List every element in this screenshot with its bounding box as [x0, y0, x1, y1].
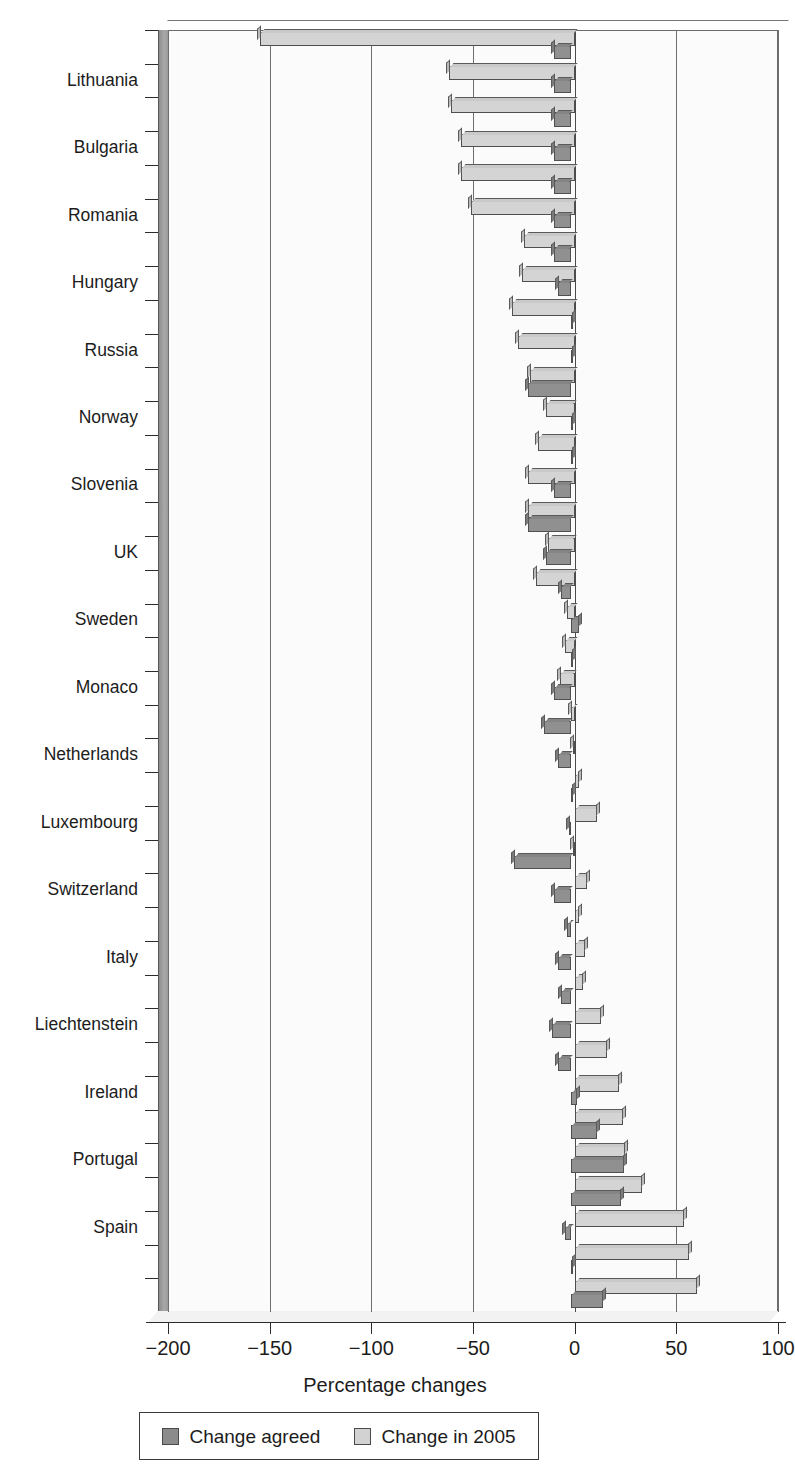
bar-top-face — [462, 131, 577, 135]
bar-change-agreed — [571, 1294, 604, 1307]
y-axis-label-netherlands: Netherlands — [44, 746, 138, 764]
bar-top-face — [576, 1109, 626, 1113]
bar-change-in-2005 — [546, 403, 574, 416]
bar-top-face — [555, 481, 573, 485]
y-axis-tick — [145, 300, 158, 301]
y-axis-label-sweden: Sweden — [75, 611, 138, 629]
y-axis-tick — [145, 907, 158, 908]
bar-end-face — [558, 579, 562, 594]
bar-end-face — [515, 329, 519, 344]
bar-end-face — [257, 26, 261, 41]
bar-end-face — [555, 950, 559, 965]
y-axis-tick — [145, 738, 158, 739]
bar-top-face — [519, 333, 578, 337]
y-axis-label-monaco: Monaco — [76, 679, 138, 697]
bar-end-face — [525, 512, 529, 527]
bar-top-face — [555, 77, 573, 81]
y-axis-tick — [145, 1177, 158, 1178]
y-axis-tick — [145, 536, 158, 537]
y-axis-tick — [145, 199, 158, 200]
y-axis-label-romania: Romania — [68, 207, 138, 225]
y-axis-label-portugal: Portugal — [73, 1151, 138, 1169]
bar-top-face — [547, 400, 577, 404]
bar-change-in-2005 — [575, 910, 579, 923]
y-axis-tick — [145, 705, 158, 706]
legend-item-change-in-2005: Change in 2005 — [354, 1427, 515, 1446]
bar-end-face — [525, 464, 529, 479]
gridline — [371, 30, 372, 1312]
bar-change-in-2005 — [575, 876, 587, 889]
y-axis-tick — [145, 772, 158, 773]
bar-change-agreed — [554, 484, 570, 497]
bar-change-agreed — [558, 282, 570, 295]
legend-label-change-agreed: Change agreed — [189, 1427, 320, 1446]
bar-top-face — [529, 502, 577, 506]
bar-end-face — [555, 1051, 559, 1066]
y-axis-tick — [145, 1143, 158, 1144]
bar-top-face — [555, 886, 573, 890]
y-axis-tick — [145, 334, 158, 335]
y-axis-label-switzerland: Switzerland — [48, 881, 138, 899]
bar-top-face — [261, 29, 578, 33]
bar-end-face — [551, 73, 555, 88]
gridline — [270, 30, 271, 1312]
bar-change-in-2005 — [575, 1247, 689, 1260]
x-axis-tick-label: 0 — [569, 1338, 580, 1358]
y-axis-label-luxembourg: Luxembourg — [41, 814, 138, 832]
bar-change-in-2005 — [575, 1078, 620, 1091]
bar-top-face — [472, 198, 577, 202]
bar-end-face — [570, 734, 574, 749]
y-axis-tick — [145, 232, 158, 233]
bar-change-agreed — [571, 1260, 573, 1273]
bar-end-face — [572, 343, 576, 358]
y-axis-tick — [145, 1076, 158, 1077]
bar-change-agreed — [554, 215, 570, 228]
y-axis-label-uk: UK — [114, 544, 138, 562]
bar-change-in-2005 — [575, 1011, 601, 1024]
bar-change-agreed — [571, 1125, 597, 1138]
plot-wrap: LithuaniaBulgariaRomaniaHungaryRussiaNor… — [0, 0, 790, 1330]
x-axis-tick-label: 50 — [665, 1338, 687, 1358]
bar-end-face — [551, 680, 555, 695]
x-axis-tick — [575, 1322, 576, 1334]
bar-top-face — [545, 718, 573, 722]
bar-change-in-2005 — [575, 943, 585, 956]
bar-change-agreed — [571, 788, 573, 801]
bar-top-face — [539, 434, 577, 438]
bar-change-agreed — [558, 754, 570, 767]
bar-change-agreed — [571, 1092, 577, 1105]
bar-top-face — [523, 266, 577, 270]
y-axis-tick — [145, 502, 158, 503]
bar-change-agreed — [554, 113, 570, 126]
gridline — [676, 30, 677, 1312]
bar-end-face — [555, 275, 559, 290]
bar-change-in-2005 — [575, 1213, 685, 1226]
bar-end-face — [448, 93, 452, 108]
bar-end-face — [558, 984, 562, 999]
bar-top-face — [513, 299, 578, 303]
x-axis-tick — [676, 1322, 677, 1334]
bar-end-face — [551, 39, 555, 54]
bar-change-agreed — [571, 316, 573, 329]
y-axis-label-liechtenstein: Liechtenstein — [35, 1016, 138, 1034]
y-axis-tick — [145, 806, 158, 807]
bar-top-face — [452, 97, 578, 101]
y-axis-tick — [145, 30, 158, 31]
y-axis-label-slovenia: Slovenia — [71, 476, 138, 494]
y-axis-label-norway: Norway — [79, 409, 138, 427]
bar-end-face — [533, 566, 537, 581]
bar-top-face — [553, 1021, 573, 1025]
bar-top-face — [529, 380, 573, 384]
y-axis-tick — [145, 64, 158, 65]
bar-top-face — [555, 684, 573, 688]
y-axis-tick — [145, 1110, 158, 1111]
bar-change-in-2005 — [538, 437, 575, 450]
bar-top-face — [576, 1075, 622, 1079]
bar-change-agreed — [558, 1058, 570, 1071]
y-axis-tick — [145, 604, 158, 605]
bar-change-agreed — [514, 856, 571, 869]
y-axis-tick — [145, 1245, 158, 1246]
x-axis-tick — [270, 1322, 271, 1334]
y-axis-label-hungary: Hungary — [72, 274, 138, 292]
bar-end-face — [541, 714, 545, 729]
